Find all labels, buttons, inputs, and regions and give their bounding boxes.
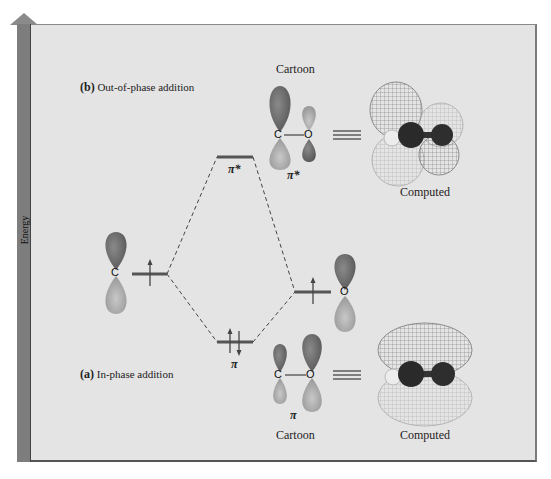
top-computed-caption: Computed (400, 185, 450, 200)
top-cartoon-carbon: C (274, 128, 282, 140)
oxygen-atom-label: O (340, 285, 349, 297)
equals-icon-top (333, 131, 361, 139)
pi-star-level-label: π* (228, 162, 241, 177)
bottom-cartoon-title: Cartoon (276, 428, 315, 443)
pi-star-computed-model (370, 82, 463, 186)
bottom-cartoon-carbon: C (274, 368, 282, 380)
correlation-lines (167, 157, 295, 342)
bottom-cartoon-oxygen: O (306, 368, 315, 380)
pi-computed-model (378, 323, 472, 426)
carbon-atom-label: C (111, 266, 119, 278)
top-cartoon-oxygen: O (304, 128, 313, 140)
pi-level-label: π (231, 357, 238, 372)
bottom-cartoon-caption: π (290, 408, 297, 423)
top-cartoon-caption: π* (287, 168, 300, 183)
top-cartoon-title: Cartoon (276, 62, 315, 77)
bottom-computed-caption: Computed (400, 428, 450, 443)
equals-icon-bottom (333, 371, 361, 379)
